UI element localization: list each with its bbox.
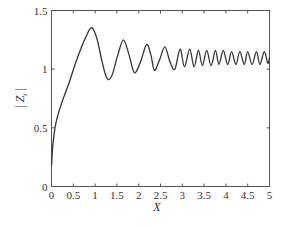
x-tick-label: 3.5 xyxy=(197,189,211,201)
x-tick-label: 0 xyxy=(49,189,55,201)
line-chart: 00.511.522.533.544.55 00.511.5 X |Zt| xyxy=(0,0,283,227)
data-series-line xyxy=(52,28,270,166)
figure-caption-faded xyxy=(40,212,283,222)
y-tick-labels: 00.511.5 xyxy=(34,5,48,193)
x-tick-label: 1.5 xyxy=(110,189,124,201)
x-tick-label: 2 xyxy=(136,189,142,201)
svg-text:|Zt|: |Zt| xyxy=(13,88,29,107)
y-tick-label: 1.5 xyxy=(34,5,48,17)
x-tick-label: 0.5 xyxy=(66,189,80,201)
x-tick-label: 5 xyxy=(267,189,273,201)
plot-area: 00.511.522.533.544.55 00.511.5 xyxy=(34,5,273,201)
y-tick-label: 0 xyxy=(42,181,48,193)
axes-frame xyxy=(52,11,270,187)
axis-ticks xyxy=(52,11,270,187)
y-label-bar-left: | xyxy=(13,105,27,107)
y-label-subscript: t xyxy=(21,93,29,96)
x-tick-label: 2.5 xyxy=(154,189,168,201)
y-axis-label: |Zt| xyxy=(13,88,29,107)
x-tick-label: 1 xyxy=(92,189,98,201)
x-tick-labels: 00.511.522.533.544.55 xyxy=(49,189,273,201)
y-tick-label: 1 xyxy=(42,63,48,75)
x-tick-label: 4 xyxy=(223,189,229,201)
y-label-bar-right: | xyxy=(13,88,27,90)
x-tick-label: 3 xyxy=(180,189,186,201)
x-tick-label: 4.5 xyxy=(241,189,255,201)
y-tick-label: 0.5 xyxy=(34,122,48,134)
